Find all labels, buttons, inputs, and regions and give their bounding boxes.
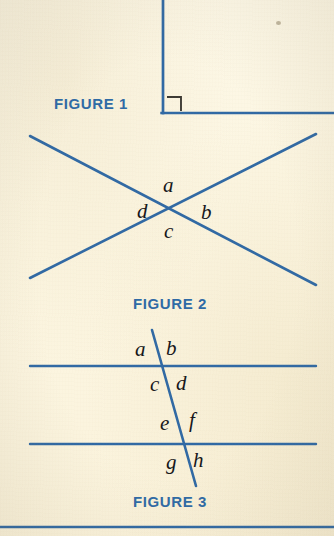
paper-speck	[276, 21, 281, 25]
figure-2-line-descending	[30, 136, 316, 285]
figure-3-angle-label-c: c	[150, 374, 159, 395]
figure-1-caption: FIGURE 1	[54, 95, 128, 112]
figure-2-angle-label-c: c	[164, 221, 173, 242]
figure-3-angle-label-g: g	[166, 452, 177, 473]
figure-3-angle-label-h: h	[193, 450, 204, 471]
figure-2-caption: FIGURE 2	[133, 295, 207, 312]
figure-1-graphic	[162, 0, 334, 113]
figure-2-graphic	[30, 134, 316, 285]
figure-3-angle-label-f: f	[189, 410, 195, 431]
figure-3-angle-label-a: a	[135, 339, 146, 360]
figure-2-line-ascending	[30, 134, 316, 278]
figure-3-angle-label-e: e	[160, 413, 169, 434]
figure-3-angle-label-d: d	[176, 373, 187, 394]
scanned-textbook-page: FIGURE 1 a b c d FIGURE 2 a b c d e f g …	[0, 0, 334, 536]
figure-2-angle-label-d: d	[137, 201, 148, 222]
figure-2-angle-label-a: a	[163, 175, 174, 196]
figure-3-angle-label-b: b	[166, 338, 177, 359]
figure-3-caption: FIGURE 3	[133, 493, 207, 510]
figure-2-angle-label-b: b	[201, 202, 212, 223]
figure-1-right-angle-mark	[167, 97, 181, 111]
